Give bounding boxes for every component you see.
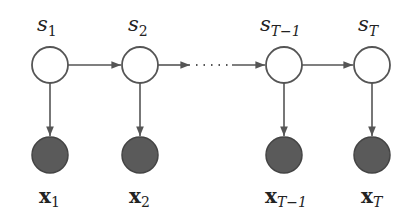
node-xT-1 <box>266 137 302 173</box>
node-xT <box>354 137 390 173</box>
label-sT: sT <box>358 12 380 39</box>
hmm-diagram: s1 s2 sT−1 sT x1 x2 xT−1 xT <box>0 0 410 224</box>
node-x1 <box>32 137 68 173</box>
label-x2: x2 <box>129 184 150 210</box>
node-x2 <box>122 137 158 173</box>
label-sT-1: sT−1 <box>260 12 301 39</box>
label-s2: s2 <box>128 12 148 39</box>
label-s1: s1 <box>37 12 57 39</box>
node-s2 <box>122 47 158 83</box>
label-x1: x1 <box>39 184 60 210</box>
label-xT: xT <box>361 184 384 210</box>
node-sT-1 <box>266 47 302 83</box>
node-sT <box>354 47 390 83</box>
node-s1 <box>32 47 68 83</box>
label-xT-1: xT−1 <box>265 184 307 210</box>
